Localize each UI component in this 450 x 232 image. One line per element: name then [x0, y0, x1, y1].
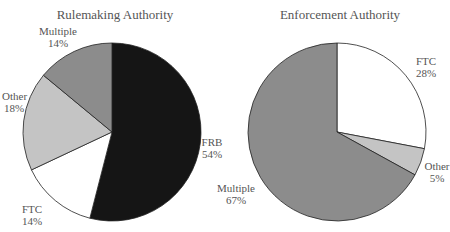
right-chart-title: Enforcement Authority: [265, 7, 415, 23]
label-other-left: Other 18%: [2, 90, 26, 114]
left-chart-title: Rulemaking Authority: [40, 7, 190, 23]
label-ftc-left: FTC 14%: [20, 203, 44, 227]
label-ftc-right: FTC 28%: [412, 55, 440, 79]
label-multiple-left: Multiple 14%: [38, 25, 78, 49]
label-frb: FRB 54%: [200, 136, 224, 160]
label-multiple-right: Multiple 67%: [216, 182, 256, 206]
label-other-right: Other 5%: [423, 160, 450, 184]
